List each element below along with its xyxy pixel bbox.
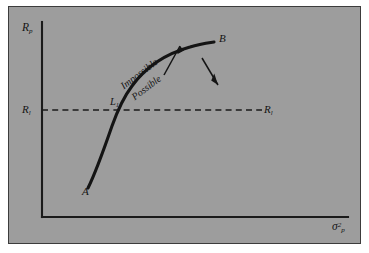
reference-line-right-label-subscript: l [271,109,273,116]
reference-line-left-label-subscript: l [29,109,31,116]
y-axis-label: Rp [22,22,33,35]
x-axis-label-subscript: p [341,226,345,234]
reference-line-left-label-base: R [22,103,29,115]
y-axis-label-subscript: p [29,27,33,35]
x-axis-label: σ2p [332,221,345,234]
figure-root: Rp σ2p Rl Rl A B L1 Impossible Possible [0,0,369,253]
possible-arrow [202,58,218,85]
reference-line-right-label-base: R [264,103,271,115]
point-l-label: L1 [110,97,119,108]
reference-line-left-label: Rl [22,104,31,117]
point-a-label: A [82,186,89,197]
point-l-label-subscript: 1 [116,101,119,108]
y-axis-label-base: R [22,21,29,33]
impossible-arrow [164,46,184,75]
plot-canvas [0,0,369,253]
point-b-label: B [219,33,226,44]
reference-line-right-label: Rl [264,104,273,117]
